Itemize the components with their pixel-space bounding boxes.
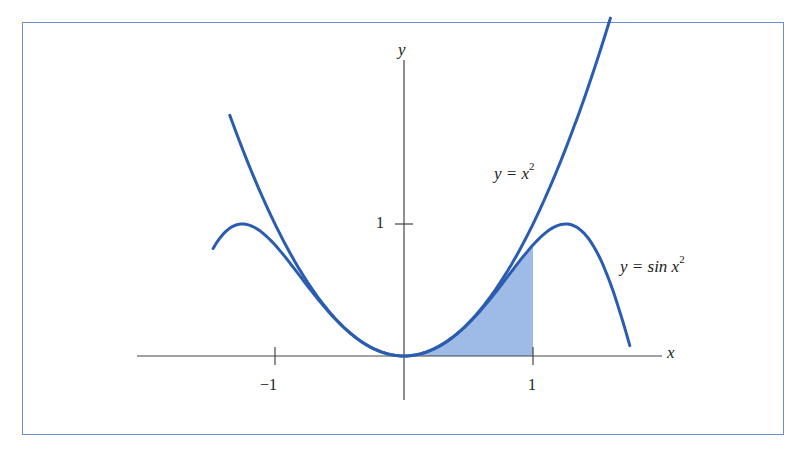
legend-label-x-squared: y = x2 <box>494 162 535 184</box>
label-exponent: 2 <box>529 160 535 172</box>
y-axis-label: y <box>398 40 406 60</box>
x-tick-label-neg1: −1 <box>260 376 277 394</box>
x-axis-label: x <box>667 343 675 363</box>
label-text: y = sin x <box>620 257 679 276</box>
curve-sin-x-squared <box>213 224 630 356</box>
plot-area <box>0 0 806 463</box>
x-tick-label-1: 1 <box>528 376 536 394</box>
y-tick-label-1: 1 <box>376 214 384 232</box>
label-exponent: 2 <box>679 253 685 265</box>
legend-label-sin-x-squared: y = sin x2 <box>620 255 685 277</box>
curve-x-squared <box>230 18 611 356</box>
label-text: y = x <box>494 164 529 183</box>
